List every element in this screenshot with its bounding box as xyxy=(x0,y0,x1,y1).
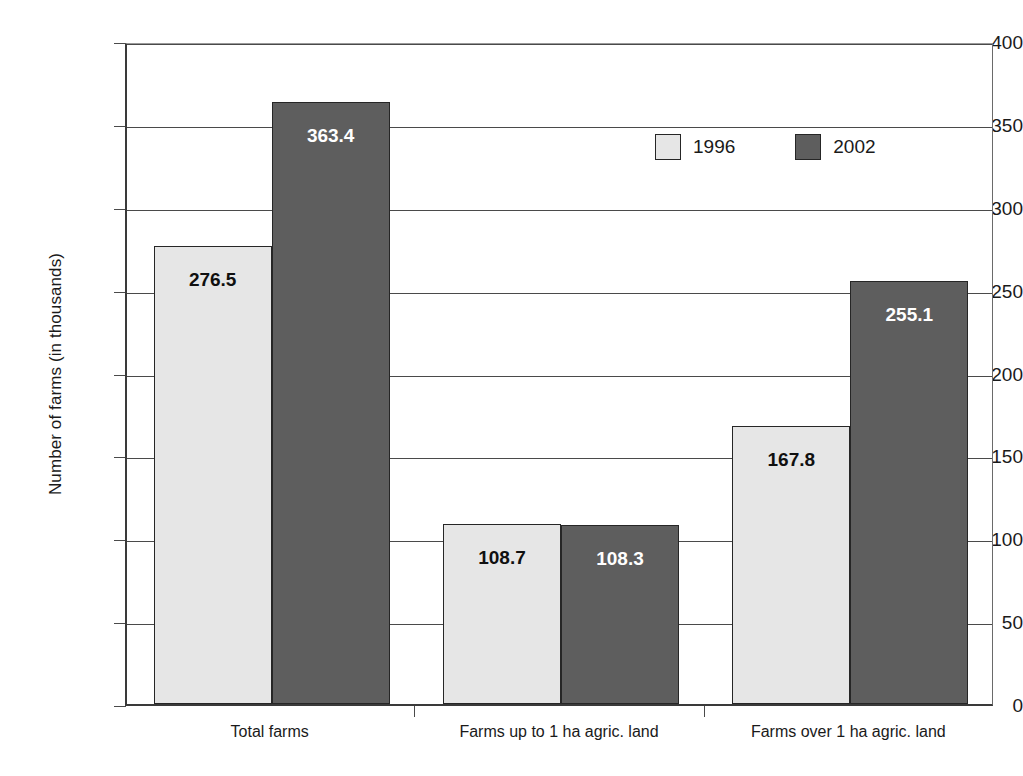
bar-2002-0: 363.4 xyxy=(272,102,390,704)
bar-value-label: 167.8 xyxy=(733,449,849,471)
category-separator xyxy=(704,706,705,717)
legend-label-2002: 2002 xyxy=(833,136,875,158)
bar-value-label: 363.4 xyxy=(273,125,389,147)
bar-value-label: 255.1 xyxy=(851,304,967,326)
category-label-2: Farms over 1 ha agric. land xyxy=(704,723,993,741)
legend-swatch-1996 xyxy=(655,134,681,160)
bar-chart: Number of farms (in thousands) 400350300… xyxy=(0,0,1023,776)
y-tick-mark xyxy=(114,706,126,707)
legend-swatch-2002 xyxy=(795,134,821,160)
category-label-1: Farms up to 1 ha agric. land xyxy=(414,723,703,741)
category-separator xyxy=(414,706,415,717)
gridline xyxy=(127,210,992,211)
bar-2002-1: 108.3 xyxy=(561,525,679,705)
bar-1996-2: 167.8 xyxy=(732,426,850,704)
gridline xyxy=(127,127,992,128)
y-axis-title: Number of farms (in thousands) xyxy=(46,224,66,524)
bar-1996-0: 276.5 xyxy=(154,246,272,704)
legend: 1996 2002 xyxy=(655,131,876,163)
bar-1996-1: 108.7 xyxy=(443,524,561,704)
legend-item-1996: 1996 xyxy=(655,134,735,160)
bar-2002-2: 255.1 xyxy=(850,281,968,704)
legend-item-2002: 2002 xyxy=(795,134,875,160)
category-label-0: Total farms xyxy=(125,723,414,741)
bar-value-label: 108.7 xyxy=(444,547,560,569)
bar-value-label: 276.5 xyxy=(155,269,271,291)
legend-label-1996: 1996 xyxy=(693,136,735,158)
bar-value-label: 108.3 xyxy=(562,548,678,570)
gridline xyxy=(127,44,992,45)
